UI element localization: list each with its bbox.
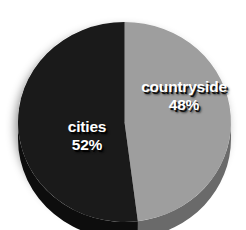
pie-chart: countryside 48% cities 52% [0,0,246,230]
pie-chart-graphic [0,0,246,230]
